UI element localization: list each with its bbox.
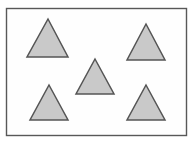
figure-canvas: Five gray triangles arranged in a quincu… [0,0,193,142]
triangles-figure [0,0,193,142]
